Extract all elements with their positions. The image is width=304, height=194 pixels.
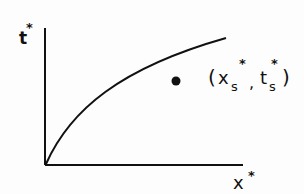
y-axis-label-superscript: * bbox=[26, 20, 33, 35]
point-label-close-paren: ) bbox=[282, 65, 290, 89]
x-axis-label: x bbox=[233, 172, 244, 193]
point-label-t: t bbox=[260, 67, 267, 88]
point-label-separator: , bbox=[249, 73, 254, 92]
point-label-x: x bbox=[218, 67, 229, 88]
point-label-t-sub: s bbox=[269, 79, 276, 94]
point-label-x-sub: s bbox=[231, 79, 238, 94]
diagram-canvas: t * x * ( x s * , t s * ) bbox=[0, 0, 304, 194]
point-label-x-sup: * bbox=[239, 56, 246, 71]
x-axis-label-superscript: * bbox=[248, 168, 255, 183]
point-label: ( x s * , t s * ) bbox=[208, 56, 290, 94]
curve bbox=[46, 38, 226, 164]
point-label-t-sup: * bbox=[271, 56, 278, 71]
point-marker bbox=[172, 77, 181, 86]
diagram-svg: t * x * ( x s * , t s * ) bbox=[0, 0, 304, 194]
point-label-open-paren: ( bbox=[208, 65, 216, 89]
